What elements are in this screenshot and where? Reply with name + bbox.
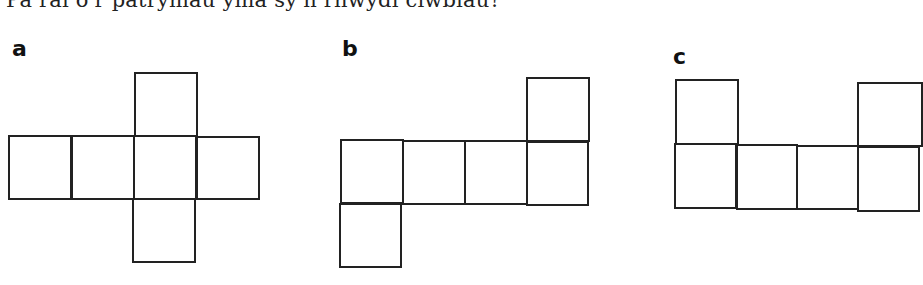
- net-square: [339, 203, 402, 268]
- net-square: [675, 79, 739, 145]
- net-square: [796, 145, 859, 210]
- option-label: b: [342, 38, 358, 60]
- net-square: [464, 140, 528, 205]
- net-square: [736, 144, 798, 210]
- net-square: [340, 139, 404, 204]
- net-square: [134, 72, 198, 137]
- question-text: Pa rai o'r patrymau yma sy'n rhwydi ciwb…: [6, 0, 501, 12]
- net-square: [402, 140, 466, 205]
- net-square: [526, 141, 589, 206]
- net-square: [196, 136, 260, 200]
- net-square: [132, 198, 196, 263]
- net-square: [8, 135, 72, 200]
- net-square: [71, 135, 135, 200]
- net-square: [857, 82, 923, 147]
- net-square: [133, 135, 197, 200]
- net-square: [857, 146, 920, 212]
- option-label: a: [12, 38, 27, 60]
- net-square: [526, 77, 590, 142]
- option-label: c: [673, 46, 686, 68]
- net-square: [674, 143, 737, 209]
